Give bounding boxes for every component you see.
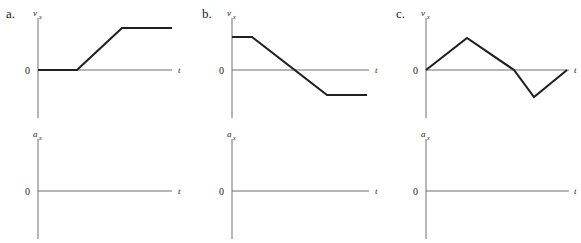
velocity-curve <box>232 37 367 95</box>
acceleration-graph-a: a x t 0 <box>0 121 195 242</box>
y-axis-label-subscript: x <box>232 135 236 141</box>
velocity-graph-c: v x t 0 <box>386 0 581 121</box>
origin-label: 0 <box>413 65 418 76</box>
velocity-graph-b: v x t 0 <box>194 0 389 121</box>
panel-b: b. v x t 0 a x t 0 <box>194 0 389 243</box>
y-axis-label-subscript: x <box>38 14 42 20</box>
panel-c: c. v x t 0 a x t 0 <box>386 0 581 243</box>
y-axis-label: a <box>421 129 426 139</box>
panel-a: a. v x t 0 a x t 0 <box>0 0 195 243</box>
y-axis-label: v <box>33 8 37 18</box>
y-axis-label: a <box>33 129 38 139</box>
origin-label: 0 <box>219 186 224 197</box>
acceleration-graph-b: a x t 0 <box>194 121 389 242</box>
x-axis-label: t <box>574 186 577 196</box>
y-axis-label-subscript: x <box>426 14 430 20</box>
x-axis-label: t <box>178 65 181 75</box>
y-axis-label: a <box>227 129 232 139</box>
x-axis-label: t <box>178 186 181 196</box>
velocity-curve <box>38 28 172 70</box>
origin-label: 0 <box>413 186 418 197</box>
y-axis-label-subscript: x <box>232 14 236 20</box>
x-axis-label: t <box>375 65 378 75</box>
y-axis-label-subscript: x <box>38 135 42 141</box>
origin-label: 0 <box>25 186 30 197</box>
x-axis-label: t <box>574 65 577 75</box>
y-axis-label-subscript: x <box>426 135 430 141</box>
velocity-graph-a: v x t 0 <box>0 0 195 121</box>
velocity-curve <box>426 38 567 97</box>
y-axis-label: v <box>227 8 231 18</box>
physics-figure: a. v x t 0 a x t 0 b. <box>0 0 581 243</box>
y-axis-label: v <box>421 8 425 18</box>
origin-label: 0 <box>219 65 224 76</box>
x-axis-label: t <box>375 186 378 196</box>
origin-label: 0 <box>25 65 30 76</box>
acceleration-graph-c: a x t 0 <box>386 121 581 242</box>
